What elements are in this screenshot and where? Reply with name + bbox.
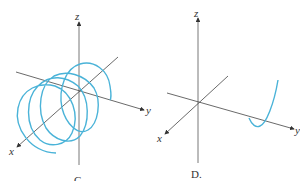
y-axis-label: y bbox=[294, 124, 300, 136]
y-axis-label: y bbox=[145, 104, 151, 116]
z-axis-label: z bbox=[74, 10, 80, 22]
x-axis-label: x bbox=[8, 145, 14, 157]
figure-canvas: z y x C z y x D. bbox=[0, 0, 300, 181]
figure-c: z y x C bbox=[8, 10, 151, 181]
figure-d: z y x D. bbox=[156, 7, 300, 180]
caption-c: C bbox=[74, 174, 81, 181]
caption-d: D. bbox=[191, 168, 202, 180]
y-axis bbox=[167, 93, 294, 129]
z-axis-label: z bbox=[193, 7, 199, 19]
parabola-curve bbox=[249, 80, 278, 127]
x-axis bbox=[165, 76, 228, 134]
x-axis-label: x bbox=[156, 132, 162, 144]
